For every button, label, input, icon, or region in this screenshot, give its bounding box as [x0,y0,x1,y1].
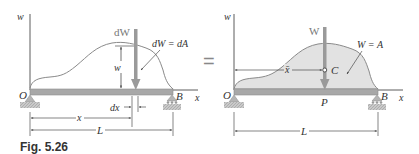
w-axis-label: w [224,11,231,22]
dw-equals-da-leader [141,50,160,70]
w-equals-a-label: W = A [357,39,384,50]
l-label: L [300,125,307,137]
l-label: L [96,124,103,136]
load-area [234,43,378,89]
point-p-label: P [320,96,328,108]
x-axis-label: x [194,92,200,103]
centroid-label: C [331,64,339,76]
left-diagram: w x O B w dW [17,11,200,136]
dw-label: dW [114,26,131,38]
figure-caption: Fig. 5.26 [20,140,68,154]
equals-sign: = [203,50,215,72]
support-b-label: B [381,90,388,102]
dw-equals-da-label: dW = dA [152,38,189,49]
figure-canvas: w x O B w dW [0,0,419,154]
beam [30,89,173,95]
x-axis-label: x [398,92,404,103]
origin-label: O [19,89,27,101]
w-force-label: W [309,25,320,37]
centroid-marker [323,68,327,72]
support-b-label: B [176,90,183,102]
origin-label: O [223,89,231,101]
x-position-label: x [76,112,82,123]
x-bar-label: x̄ [284,64,290,75]
dx-label: dx [110,102,120,113]
w-axis-label: w [17,11,24,22]
right-diagram: w x O B W C [223,11,404,137]
beam [234,89,378,95]
dw-force-arrow [131,29,141,90]
w-height-label: w [114,62,121,73]
load-curve [30,42,173,89]
